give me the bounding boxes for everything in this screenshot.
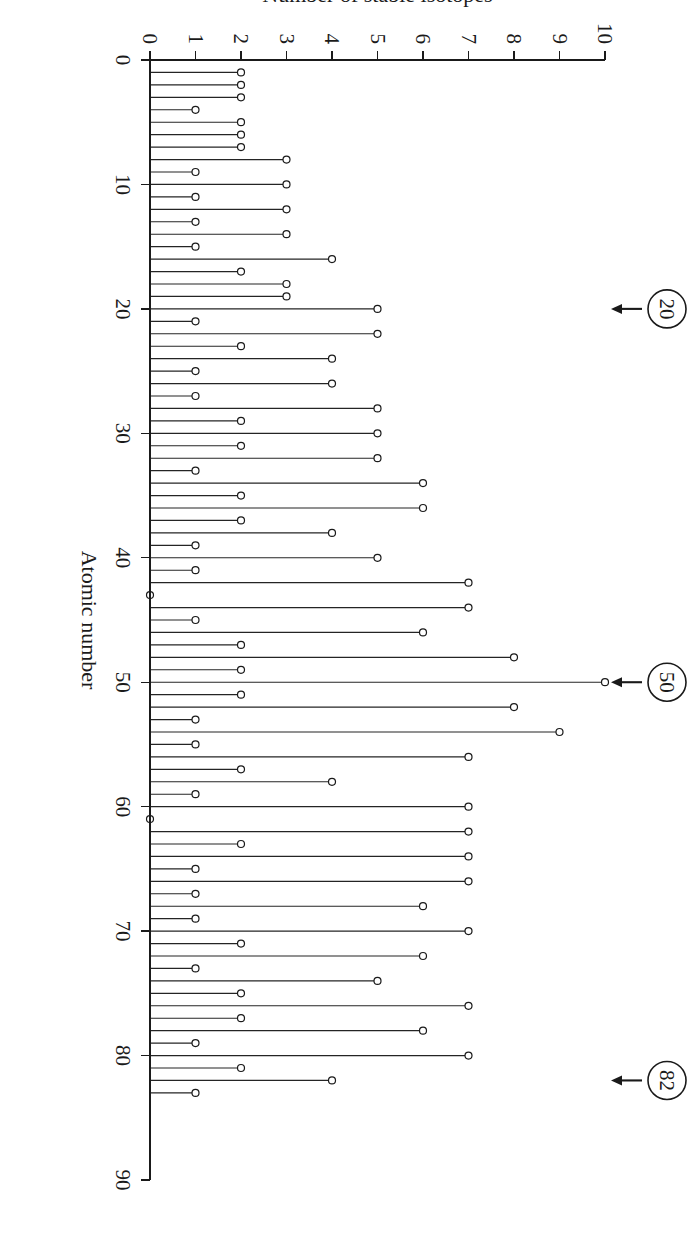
stem-marker: [238, 1065, 245, 1072]
stem-marker: [238, 268, 245, 275]
x-tick-label: 60: [111, 796, 135, 817]
stem-marker: [465, 828, 472, 835]
rotated-figure-stage: 0102030405060708090 012345678910 205082 …: [0, 0, 695, 1248]
stem-marker: [283, 206, 290, 213]
stem-marker: [374, 305, 381, 312]
stem: [150, 256, 336, 263]
stem-marker: [556, 729, 563, 736]
stem: [150, 417, 245, 424]
stem-marker: [238, 442, 245, 449]
stem: [150, 455, 381, 462]
x-tick-label: 30: [111, 423, 135, 444]
x-tick-label: 50: [111, 672, 135, 693]
y-tick-label: 1: [184, 34, 208, 45]
stem-marker: [283, 156, 290, 163]
x-tick-label: 10: [111, 174, 135, 195]
stem-marker: [192, 567, 199, 574]
stem: [150, 281, 290, 288]
y-tick-label: 6: [411, 34, 435, 45]
magic-number-annotations: 205082: [611, 290, 686, 1100]
stem-marker: [192, 617, 199, 624]
stem-marker: [192, 467, 199, 474]
stem-marker: [192, 890, 199, 897]
stem-marker: [238, 666, 245, 673]
stem: [150, 119, 245, 126]
stem: [150, 368, 199, 375]
stem-marker: [192, 393, 199, 400]
stem: [150, 343, 245, 350]
stem-marker: [238, 841, 245, 848]
stem: [150, 890, 199, 897]
stem-marker: [283, 181, 290, 188]
stem: [150, 330, 381, 337]
stem-marker: [602, 679, 609, 686]
stem-marker: [192, 865, 199, 872]
stem: [150, 617, 199, 624]
stem: [150, 517, 245, 524]
stem-marker: [192, 368, 199, 375]
stem-marker: [420, 903, 427, 910]
stem-marker: [192, 318, 199, 325]
stem-marker: [192, 791, 199, 798]
stem: [150, 878, 472, 885]
stem-marker: [420, 480, 427, 487]
stem-plot: 0102030405060708090 012345678910 205082 …: [0, 0, 695, 1248]
stem-marker: [238, 1015, 245, 1022]
stem: [150, 803, 472, 810]
stem-marker: [465, 753, 472, 760]
stem-marker: [329, 380, 336, 387]
stem: [150, 442, 245, 449]
magic-number-annotation: 82: [611, 1061, 686, 1099]
stem-marker: [238, 641, 245, 648]
annotation-arrow-head: [611, 677, 622, 687]
stem: [150, 666, 245, 673]
stem: [150, 430, 381, 437]
x-tick-label: 70: [111, 921, 135, 942]
stem-marker: [238, 131, 245, 138]
stem-marker: [465, 579, 472, 586]
stem-marker: [238, 492, 245, 499]
stem: [150, 965, 199, 972]
y-tick-label: 9: [548, 34, 572, 45]
stem: [150, 480, 427, 487]
stem-marker: [238, 517, 245, 524]
stem-marker: [465, 1052, 472, 1059]
stem: [150, 355, 336, 362]
stem: [150, 841, 245, 848]
stem: [150, 716, 199, 723]
stem-marker: [283, 293, 290, 300]
stem: [150, 156, 290, 163]
y-tick-label: 3: [275, 34, 299, 45]
x-axis-title: Atomic number: [77, 551, 102, 690]
stem-marker: [329, 355, 336, 362]
stem-marker: [238, 119, 245, 126]
stem-marker: [238, 81, 245, 88]
y-axis-ticks-group: 012345678910: [138, 23, 617, 60]
stem-marker: [192, 1040, 199, 1047]
stem-marker: [374, 455, 381, 462]
x-tick-label: 80: [111, 1045, 135, 1066]
stem-marker: [283, 231, 290, 238]
stem-marker: [374, 977, 381, 984]
stem-marker: [465, 928, 472, 935]
magic-number-label: 20: [655, 298, 679, 319]
stem: [150, 753, 472, 760]
stem-marker: [192, 542, 199, 549]
stem: [150, 81, 245, 88]
stem: [150, 305, 381, 312]
magic-number-annotation: 20: [611, 290, 686, 328]
stem: [150, 865, 199, 872]
stem: [150, 940, 245, 947]
y-tick-label: 8: [502, 34, 526, 45]
x-tick-label: 20: [111, 298, 135, 319]
stem: [150, 393, 199, 400]
stem: [150, 144, 245, 151]
stem-marker: [329, 778, 336, 785]
stem-marker: [192, 193, 199, 200]
stem: [150, 1015, 245, 1022]
stem: [150, 169, 199, 176]
stem-marker: [374, 430, 381, 437]
stem-marker: [420, 629, 427, 636]
stem-marker: [192, 965, 199, 972]
y-tick-label: 2: [229, 34, 253, 45]
